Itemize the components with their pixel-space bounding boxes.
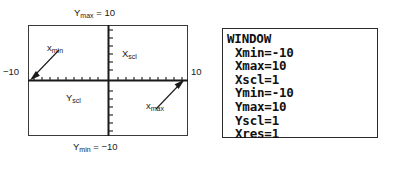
- setting-row-xscl[interactable]: Xscl=1: [227, 73, 377, 87]
- setting-row-ymax[interactable]: Ymax=10: [227, 100, 377, 114]
- setting-row-ymin[interactable]: Ymin=-10: [227, 86, 377, 100]
- x-axis-right-value: 10: [191, 67, 202, 77]
- viewing-window-figure: Ymax = 10 Ymin = −10 −10 10 xmin xmax Xs…: [0, 0, 205, 172]
- setting-row-xmax[interactable]: Xmax=10: [227, 59, 377, 73]
- calculator-window-screen: WINDOW Xmin=-10 Xmax=10 Xscl=1 Ymin=-10 …: [222, 28, 378, 138]
- graph-axes: [28, 25, 188, 136]
- x-axis-left-value: −10: [3, 67, 19, 77]
- xmin-callout-label: xmin: [47, 43, 63, 53]
- window-screen-title: WINDOW: [227, 32, 377, 46]
- yscl-label: Yscl: [66, 93, 81, 103]
- ymax-label: Ymax = 10: [74, 8, 115, 18]
- xmax-callout-label: xmax: [146, 101, 164, 111]
- setting-row-yscl[interactable]: Yscl=1: [227, 114, 377, 128]
- setting-row-xmin[interactable]: Xmin=-10: [227, 46, 377, 60]
- setting-row-xres[interactable]: Xres=1: [227, 127, 377, 141]
- xscl-label: Xscl: [122, 49, 137, 59]
- xmin-arrow: [32, 50, 60, 79]
- ymin-label: Ymin = −10: [73, 142, 118, 152]
